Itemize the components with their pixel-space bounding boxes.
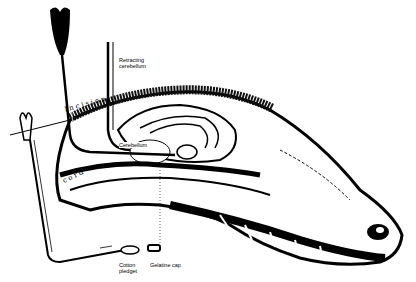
label-cerebellum: Cerebellum [119,142,147,148]
label-gelatine-cap: Gelatine cap [150,262,181,268]
anatomical-illustration [0,0,416,282]
cotton-pledget [121,246,139,254]
label-pledget: pledget [119,268,137,274]
label-cerebellum-retract: cerebellum [119,63,146,69]
gelatine-cap [148,245,160,251]
